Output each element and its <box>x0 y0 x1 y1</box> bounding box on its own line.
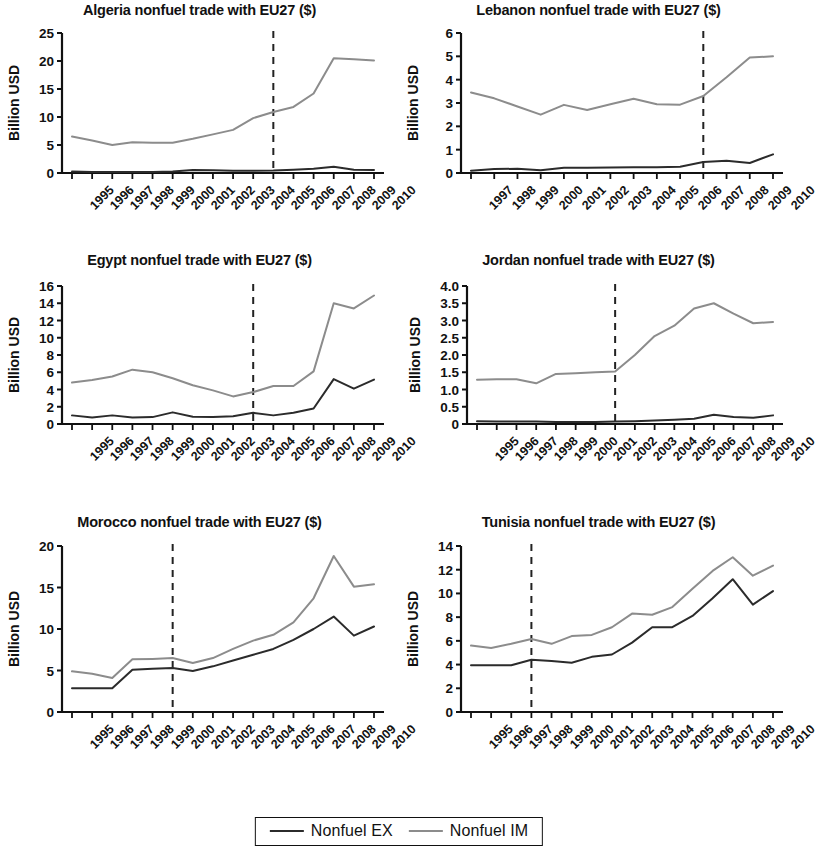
y-tick-label: 10 <box>39 330 54 345</box>
legend-line-swatch <box>409 830 443 832</box>
y-tick-label: 3.5 <box>440 296 459 311</box>
y-tick-label: 12 <box>39 313 54 328</box>
y-tick-label: 8 <box>46 348 54 363</box>
y-tick-label: 2 <box>445 119 453 134</box>
y-tick-label: 20 <box>39 539 54 554</box>
y-tick-label: 2.5 <box>440 330 459 345</box>
axis-lines <box>62 286 384 424</box>
y-tick-label: 1.5 <box>440 365 459 380</box>
series-line-nonfuel-im <box>471 56 773 114</box>
y-tick-label: 15 <box>39 82 54 97</box>
y-axis-label: Billion USD <box>405 65 421 141</box>
y-tick-label: 10 <box>438 586 453 601</box>
y-tick-label: 15 <box>39 580 54 595</box>
y-tick-label: 0 <box>46 417 54 432</box>
y-tick-label: 12 <box>438 562 453 577</box>
y-tick-label: 0 <box>445 705 453 720</box>
y-tick-label: 1.0 <box>440 382 459 397</box>
chart-panel-algeria: Algeria nonfuel trade with EU27 ($)05101… <box>0 0 399 250</box>
y-tick-label: 10 <box>39 110 54 125</box>
y-axis-label: Billion USD <box>405 591 421 667</box>
chart-panel-egypt: Egypt nonfuel trade with EU27 ($)0246810… <box>0 250 399 500</box>
y-tick-label: 2.0 <box>440 348 459 363</box>
y-tick-label: 4.0 <box>440 279 459 294</box>
y-tick-label: 8 <box>445 610 453 625</box>
y-tick-label: 4 <box>46 382 54 397</box>
series-line-nonfuel-im <box>477 303 773 383</box>
series-line-nonfuel-im <box>471 557 773 648</box>
y-axis-label: Billion USD <box>407 317 423 393</box>
chart-grid: Algeria nonfuel trade with EU27 ($)05101… <box>0 0 798 795</box>
y-tick-label: 4 <box>445 657 453 672</box>
y-tick-label: 5 <box>46 138 54 153</box>
series-line-nonfuel-ex <box>72 167 374 172</box>
y-tick-label: 20 <box>39 54 54 69</box>
y-tick-label: 3 <box>445 96 453 111</box>
y-tick-label: 16 <box>39 279 54 294</box>
series-line-nonfuel-ex <box>471 579 773 665</box>
y-tick-label: 0 <box>445 166 453 181</box>
axis-lines <box>467 286 783 424</box>
series-line-nonfuel-ex <box>471 154 773 170</box>
y-tick-label: 2 <box>445 681 453 696</box>
legend-entry: Nonfuel EX <box>270 822 393 840</box>
y-tick-label: 3.0 <box>440 313 459 328</box>
series-line-nonfuel-im <box>72 58 374 145</box>
y-axis-label: Billion USD <box>6 65 22 141</box>
y-tick-label: 5 <box>46 663 54 678</box>
series-line-nonfuel-ex <box>72 379 374 417</box>
axis-lines <box>461 546 783 712</box>
axis-lines <box>62 33 384 173</box>
y-axis-label: Billion USD <box>6 591 22 667</box>
y-tick-label: 14 <box>39 296 54 311</box>
y-tick-label: 0 <box>46 705 54 720</box>
y-tick-label: 0 <box>46 166 54 181</box>
chart-panel-jordan: Jordan nonfuel trade with EU27 ($)00.51.… <box>399 250 798 500</box>
chart-panel-lebanon: Lebanon nonfuel trade with EU27 ($)01234… <box>399 0 798 250</box>
axis-lines <box>62 546 384 712</box>
y-tick-label: 0 <box>451 417 459 432</box>
chart-panel-morocco: Morocco nonfuel trade with EU27 ($)05101… <box>0 500 399 795</box>
y-tick-label: 10 <box>39 622 54 637</box>
legend-label: Nonfuel EX <box>311 822 393 840</box>
y-tick-label: 5 <box>445 49 453 64</box>
plot-area <box>0 0 399 250</box>
y-tick-label: 6 <box>445 26 453 41</box>
chart-legend: Nonfuel EXNonfuel IM <box>255 817 543 846</box>
chart-panel-tunisia: Tunisia nonfuel trade with EU27 ($)02468… <box>399 500 798 795</box>
series-line-nonfuel-ex <box>477 415 773 422</box>
legend-area: Nonfuel EXNonfuel IM <box>0 795 798 852</box>
y-tick-label: 1 <box>445 142 453 157</box>
legend-label: Nonfuel IM <box>450 822 528 840</box>
y-tick-label: 4 <box>445 72 453 87</box>
y-axis-label: Billion USD <box>6 317 22 393</box>
y-tick-label: 2 <box>46 399 54 414</box>
y-tick-label: 6 <box>445 633 453 648</box>
y-tick-label: 14 <box>438 539 453 554</box>
legend-entry: Nonfuel IM <box>409 822 528 840</box>
y-tick-label: 25 <box>39 26 54 41</box>
series-line-nonfuel-im <box>72 295 374 396</box>
plot-area <box>399 0 798 250</box>
legend-line-swatch <box>270 830 304 832</box>
y-tick-label: 6 <box>46 365 54 380</box>
series-line-nonfuel-im <box>72 556 374 678</box>
y-tick-label: 0.5 <box>440 399 459 414</box>
